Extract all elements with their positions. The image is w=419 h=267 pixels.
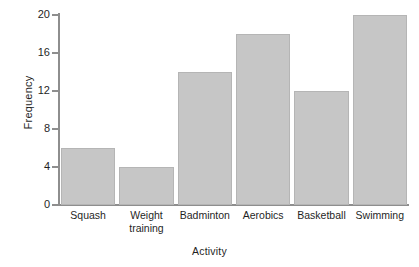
y-axis-tick-label: 20 bbox=[4, 9, 50, 20]
y-axis-tick-label-wrap: 16 bbox=[0, 47, 50, 59]
y-axis-tick-label: 8 bbox=[4, 123, 50, 134]
y-axis-tick-label-wrap: 4 bbox=[0, 161, 50, 173]
y-axis-tick-mark bbox=[52, 128, 59, 129]
y-axis-tick-mark bbox=[52, 14, 59, 15]
y-axis-title: Frequency bbox=[14, 0, 42, 205]
x-axis-tick-label: Badminton bbox=[176, 209, 234, 222]
bar bbox=[294, 91, 348, 205]
bar bbox=[119, 167, 173, 205]
bar bbox=[61, 148, 115, 205]
x-axis-tick-label-line2: training bbox=[117, 222, 175, 235]
y-axis-tick-label: 12 bbox=[4, 85, 50, 96]
x-axis-tick-label-line1: Swimming bbox=[351, 209, 409, 222]
x-axis-tick-label-line1: Weight bbox=[117, 209, 175, 222]
bar bbox=[178, 72, 232, 205]
y-axis-tick-label: 4 bbox=[4, 161, 50, 172]
y-axis-tick-mark bbox=[52, 166, 59, 167]
y-axis-tick-label: 0 bbox=[4, 199, 50, 210]
x-axis-tick-label-line1: Squash bbox=[59, 209, 117, 222]
bar bbox=[236, 34, 290, 205]
y-axis-tick-label: 16 bbox=[4, 47, 50, 58]
y-axis-tick-mark bbox=[52, 204, 59, 205]
bar bbox=[353, 15, 407, 205]
x-axis-tick-label: Weighttraining bbox=[117, 209, 175, 234]
x-axis-tick-label-line1: Badminton bbox=[176, 209, 234, 222]
x-axis-tick-label: Squash bbox=[59, 209, 117, 222]
bar-chart-figure: Frequency 048121620 SquashWeighttraining… bbox=[0, 0, 419, 267]
y-axis-tick-mark bbox=[52, 52, 59, 53]
x-axis-title: Activity bbox=[0, 245, 419, 257]
y-axis-tick-label-wrap: 20 bbox=[0, 9, 50, 21]
y-axis-tick-label-wrap: 0 bbox=[0, 199, 50, 211]
x-axis-tick-label: Swimming bbox=[351, 209, 409, 222]
y-axis-tick-mark bbox=[52, 90, 59, 91]
x-axis-tick-label-line1: Aerobics bbox=[234, 209, 292, 222]
x-axis-tick-label-line1: Basketball bbox=[292, 209, 350, 222]
y-axis-tick-label-wrap: 12 bbox=[0, 85, 50, 97]
y-axis-tick-label-wrap: 8 bbox=[0, 123, 50, 135]
plot-area bbox=[59, 15, 409, 205]
x-axis-tick-label: Basketball bbox=[292, 209, 350, 222]
x-axis-tick-label: Aerobics bbox=[234, 209, 292, 222]
